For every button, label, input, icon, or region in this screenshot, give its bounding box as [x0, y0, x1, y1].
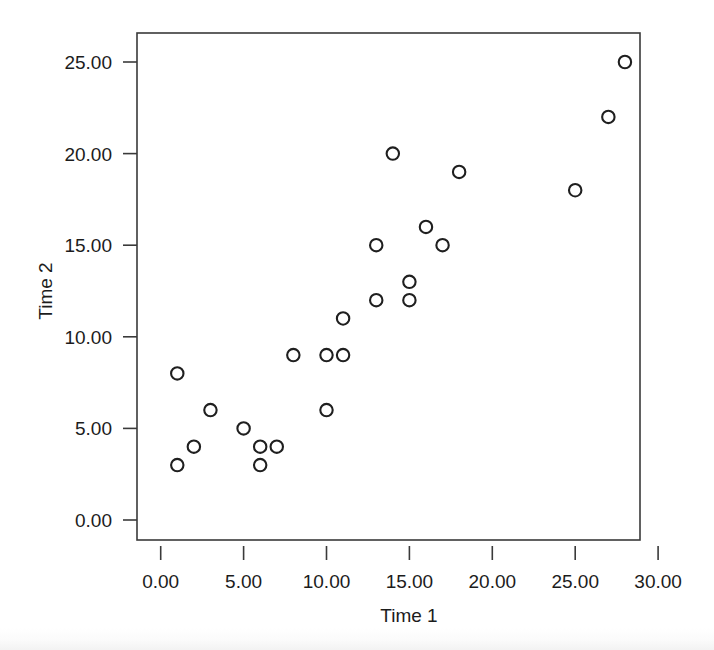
y-tick-label: 0.00 — [75, 510, 112, 531]
data-point — [337, 349, 349, 361]
data-point — [171, 459, 183, 471]
x-tick-labels: 0.00 5.00 10.00 15.00 20.00 25.00 30.00 — [142, 571, 682, 592]
data-point — [602, 111, 614, 123]
data-point — [619, 56, 631, 68]
y-tick-label: 20.00 — [64, 144, 112, 165]
data-point — [337, 312, 349, 324]
y-tick-labels: 25.00 20.00 15.00 10.00 5.00 0.00 — [64, 52, 112, 531]
data-point — [271, 441, 283, 453]
data-point — [204, 404, 216, 416]
x-tick-label: 25.00 — [551, 571, 599, 592]
scatter-plot-figure: 0.00 5.00 10.00 15.00 20.00 25.00 30.00 … — [0, 0, 714, 650]
y-axis-ticks — [123, 62, 137, 520]
x-tick-label: 10.00 — [303, 571, 351, 592]
data-point — [569, 184, 581, 196]
data-point — [287, 349, 299, 361]
x-tick-label: 30.00 — [634, 571, 682, 592]
y-axis-title: Time 2 — [35, 262, 56, 319]
data-point — [370, 294, 382, 306]
data-point — [254, 459, 266, 471]
data-point — [171, 367, 183, 379]
data-point — [453, 166, 465, 178]
data-point — [436, 239, 448, 251]
data-point — [420, 221, 432, 233]
x-tick-label: 0.00 — [142, 571, 179, 592]
x-axis-title: Time 1 — [380, 605, 437, 626]
y-tick-label: 5.00 — [75, 418, 112, 439]
plot-frame — [137, 33, 640, 540]
data-point — [254, 441, 266, 453]
x-axis-ticks — [161, 546, 658, 560]
y-tick-label: 10.00 — [64, 327, 112, 348]
data-point — [320, 404, 332, 416]
data-point — [387, 147, 399, 159]
data-point — [188, 441, 200, 453]
y-tick-label: 15.00 — [64, 235, 112, 256]
x-tick-label: 15.00 — [386, 571, 434, 592]
page-edge-shading — [0, 628, 714, 650]
data-point — [403, 276, 415, 288]
plot-canvas: 0.00 5.00 10.00 15.00 20.00 25.00 30.00 … — [0, 0, 714, 650]
data-points-layer — [171, 56, 631, 471]
y-tick-label: 25.00 — [64, 52, 112, 73]
data-point — [403, 294, 415, 306]
data-point — [237, 422, 249, 434]
data-point — [370, 239, 382, 251]
x-tick-label: 5.00 — [225, 571, 262, 592]
x-tick-label: 20.00 — [469, 571, 517, 592]
data-point — [320, 349, 332, 361]
